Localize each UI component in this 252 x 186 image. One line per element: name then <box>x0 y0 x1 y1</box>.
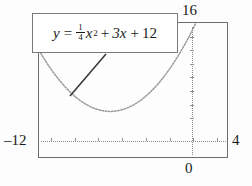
equation-constant: 12 <box>142 26 157 41</box>
fraction-numerator: 1 <box>76 23 85 32</box>
equation-lhs: y <box>53 26 61 41</box>
y-max-label: 16 <box>182 2 197 19</box>
equation-x-base: x <box>86 26 94 41</box>
equation-fraction: 1 4 <box>76 23 85 43</box>
x-max-label: 4 <box>232 132 240 149</box>
fraction-denominator: 4 <box>76 32 85 42</box>
equation-plus-1: + <box>98 26 112 41</box>
origin-label: 0 <box>185 160 193 177</box>
equation-equals: = <box>61 26 75 41</box>
x-min-label: ‒12 <box>4 132 27 149</box>
equation-linear-term: 3x <box>112 26 127 41</box>
graph-screenshot: y = 1 4 x2 + 3x + 12 16 ‒12 4 0 <box>0 0 252 186</box>
equation-text: y = 1 4 x2 + 3x + 12 <box>53 23 157 43</box>
equation-plus-2: + <box>127 26 141 41</box>
equation-callout-box: y = 1 4 x2 + 3x + 12 <box>32 13 178 53</box>
